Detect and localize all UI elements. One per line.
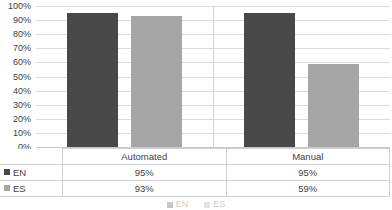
table-row: EN95%95% (0, 165, 390, 181)
y-axis-tick-label: 100% (8, 2, 31, 11)
legend-swatch-icon (167, 202, 173, 208)
legend-label: EN (13, 167, 26, 178)
legend-swatch-icon (4, 185, 10, 191)
data-table-body: AutomatedManualEN95%95%ES93%59% (0, 149, 390, 197)
y-axis-tick-label: 10% (13, 128, 31, 137)
legend-item-label: ES (213, 200, 225, 209)
table-column-header: Manual (226, 149, 390, 165)
gridlines-and-bars (36, 6, 390, 148)
table-value-cell: 93% (63, 181, 227, 197)
table-corner-cell (0, 149, 63, 165)
legend-item-es[interactable]: ES (204, 200, 225, 209)
y-axis-tick-label: 90% (13, 16, 31, 25)
table-value-cell: 59% (226, 181, 390, 197)
bar-chart-with-data-table: 100%90%80%70%60%50%40%30%20%10%0% Automa… (0, 0, 392, 210)
table-column-header: Automated (63, 149, 227, 165)
bar-es-manual (308, 64, 359, 147)
bar-en-manual (244, 13, 295, 147)
chart-legend: ENES (0, 200, 392, 210)
plot-area: 100%90%80%70%60%50%40%30%20%10%0% (0, 6, 392, 148)
chart-title (0, 0, 392, 2)
legend-item-en[interactable]: EN (167, 200, 189, 209)
table-header-row: AutomatedManual (0, 149, 390, 165)
y-axis-tick-label: 80% (13, 30, 31, 39)
y-axis-tick-label: 20% (13, 114, 31, 123)
table-value-cell: 95% (226, 165, 390, 181)
legend-swatch-icon (4, 169, 10, 175)
y-axis-tick-label: 50% (13, 72, 31, 81)
table-row: ES93%59% (0, 181, 390, 197)
legend-swatch-icon (204, 202, 210, 208)
data-table: AutomatedManualEN95%95%ES93%59% (0, 148, 390, 197)
table-value-cell: 95% (63, 165, 227, 181)
gridline (36, 6, 390, 7)
table-legend-cell-en: EN (0, 165, 63, 181)
legend-label: ES (13, 183, 26, 194)
y-axis-tick-label: 40% (13, 86, 31, 95)
bar-es-automated (131, 16, 182, 147)
y-axis-tick-label: 60% (13, 58, 31, 67)
y-axis-tick-label: 30% (13, 100, 31, 109)
legend-item-label: EN (176, 200, 189, 209)
y-axis-tick-labels: 100%90%80%70%60%50%40%30%20%10%0% (0, 6, 33, 148)
table-legend-cell-es: ES (0, 181, 63, 197)
y-axis-tick-label: 70% (13, 44, 31, 53)
bar-en-automated (67, 13, 118, 147)
